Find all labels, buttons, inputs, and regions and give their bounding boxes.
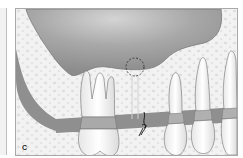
figure-panel-c: C	[15, 8, 238, 156]
upper-molar	[78, 71, 119, 155]
panel-label: C	[22, 144, 27, 151]
previous-panel-edge	[0, 8, 7, 155]
dental-illustration	[16, 9, 237, 155]
